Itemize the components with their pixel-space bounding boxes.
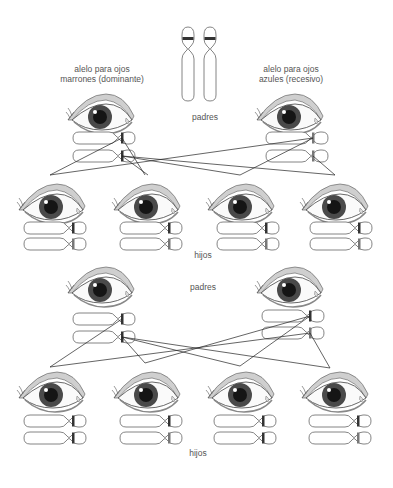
children-label-bottom: hijos <box>189 448 206 458</box>
brown-allele-label-line2: marrones (dominante) <box>60 74 144 84</box>
inheritance-diagram: alelo para ojos marrones (dominante) ale… <box>0 0 393 488</box>
parents-label-bottom: padres <box>190 282 216 292</box>
parent-chromosome-pair <box>182 27 216 101</box>
children-chromosomes-top <box>24 222 372 250</box>
parent-eye-blue <box>255 94 323 134</box>
parents-label-top: padres <box>192 112 218 122</box>
blue-allele-label-line2: azules (recesivo) <box>259 74 323 84</box>
blue-allele-label-line1: alelo para ojos <box>263 64 318 74</box>
children-label-top: hijos <box>194 250 211 260</box>
parent-left-chromosomes-bottom <box>73 313 135 343</box>
brown-allele-label-line1: alelo para ojos <box>74 64 129 74</box>
parent-eye-left-bottom <box>66 267 134 307</box>
children-chromosomes-bottom <box>24 415 371 444</box>
parent-eye-brown <box>66 94 134 134</box>
parent-right-chromosomes-bottom <box>262 310 324 339</box>
children-eyes-top <box>17 184 368 224</box>
parent-eye-right-bottom <box>255 267 323 307</box>
children-eyes-bottom <box>17 372 368 412</box>
